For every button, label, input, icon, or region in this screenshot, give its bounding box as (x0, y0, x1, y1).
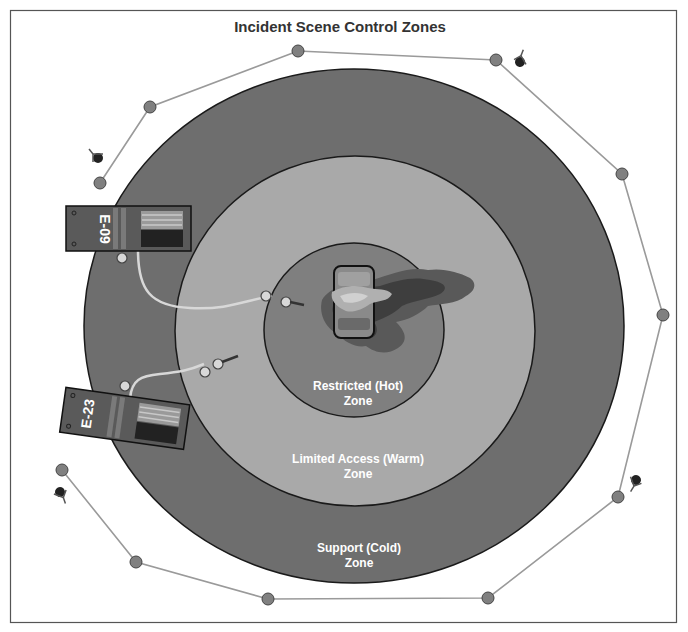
engine-e09-label: E-09 (97, 214, 113, 244)
warm-zone-label-line1: Limited Access (Warm) (292, 452, 424, 466)
hot-zone-label-line1: Restricted (Hot) (313, 379, 403, 393)
diagram-title: Incident Scene Control Zones (234, 18, 446, 35)
warm-zone-label-line2: Zone (344, 467, 373, 481)
cold-zone-label-line1: Support (Cold) (317, 541, 401, 555)
cold-zone-label-line2: Zone (345, 556, 374, 570)
hot-zone-label-line2: Zone (344, 394, 373, 408)
engine-e09: E-09 (66, 206, 191, 251)
diagram-canvas: Incident Scene Control Zones (0, 0, 688, 632)
